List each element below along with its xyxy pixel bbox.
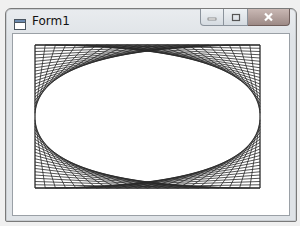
string-line (250, 120, 260, 188)
string-line (178, 45, 260, 91)
string-art-drawing (0, 0, 300, 226)
string-line (250, 45, 260, 113)
string-line (178, 143, 260, 189)
